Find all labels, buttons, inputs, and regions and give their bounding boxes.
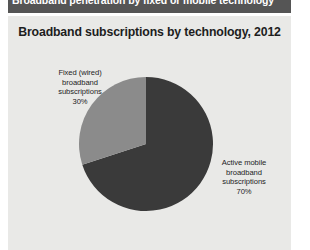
pie-label-fixed-line2: broadband [30,78,130,88]
pie-label-mobile: Active mobile broadband subscriptions 70… [196,158,292,196]
pie-label-mobile-value: 70% [196,187,292,197]
pie-label-mobile-line1: Active mobile [196,158,292,168]
pie-label-fixed-line1: Fixed (wired) [30,68,130,78]
pie-label-mobile-line3: subscriptions [196,177,292,187]
chart-panel: Broadband subscriptions by technology, 2… [8,16,291,250]
pie-label-fixed-line3: subscriptions [30,87,130,97]
pie-label-mobile-line2: broadband [196,168,292,178]
pie-label-fixed-value: 30% [30,97,130,107]
caption-banner: Broadband penetration by fixed or mobile… [8,0,291,13]
caption-banner-text: Broadband penetration by fixed or mobile… [12,0,274,7]
figure-container: Broadband penetration by fixed or mobile… [0,0,310,250]
chart-title: Broadband subscriptions by technology, 2… [8,25,291,39]
pie-label-fixed: Fixed (wired) broadband subscriptions 30… [30,68,130,106]
